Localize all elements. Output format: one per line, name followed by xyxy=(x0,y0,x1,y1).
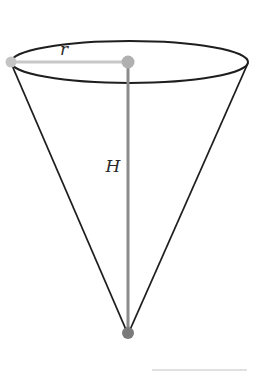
center-point xyxy=(122,56,135,69)
cone-right-side xyxy=(129,63,248,332)
radius-label: r xyxy=(60,39,69,59)
cone-left-side xyxy=(11,63,127,332)
apex-point xyxy=(122,327,134,339)
rim-point xyxy=(6,57,17,68)
height-label: H xyxy=(105,156,122,176)
cone-diagram: r H xyxy=(0,0,267,374)
